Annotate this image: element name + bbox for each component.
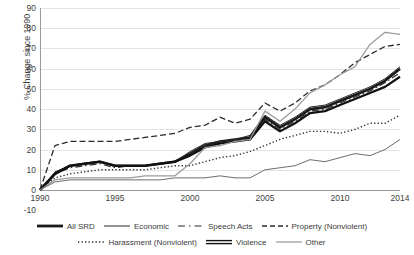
series-line xyxy=(40,69,400,190)
legend-item-label: Other xyxy=(306,238,326,247)
legend-swatch-dotted xyxy=(78,238,104,246)
legend-item[interactable]: Other xyxy=(276,238,326,247)
legend-item-label: Economic xyxy=(134,222,169,231)
legend-swatch-dashdot xyxy=(178,222,204,230)
legend-item-label: Violence xyxy=(236,238,267,247)
legend-swatch-dashed xyxy=(262,222,288,230)
legend-item[interactable]: Violence xyxy=(206,238,267,247)
legend-item-label: Speech Acts xyxy=(208,222,252,231)
legend-item[interactable]: Economic xyxy=(104,222,169,231)
series-line xyxy=(40,44,400,190)
legend-swatch-solid-double xyxy=(206,238,232,246)
legend-item-label: Harassment (Nonviolent) xyxy=(108,238,196,247)
legend-item-label: Property (Nonviolent) xyxy=(292,222,368,231)
legend-swatch-solid-thin xyxy=(104,222,130,230)
series-line xyxy=(40,67,400,190)
legend-item[interactable]: Harassment (Nonviolent) xyxy=(78,238,196,247)
series-line xyxy=(40,73,400,190)
series-line xyxy=(40,115,400,190)
chart-legend: All SRDEconomicSpeech ActsProperty (Nonv… xyxy=(0,218,404,255)
legend-item-label: All SRD xyxy=(67,222,95,231)
legend-row: All SRDEconomicSpeech ActsProperty (Nonv… xyxy=(0,218,404,234)
series-line xyxy=(40,77,400,190)
legend-swatch-solid-gray xyxy=(276,238,302,246)
series-line xyxy=(40,32,400,190)
legend-swatch-solid-thick xyxy=(37,222,63,230)
legend-item[interactable]: Property (Nonviolent) xyxy=(262,222,368,231)
legend-item[interactable]: All SRD xyxy=(37,222,95,231)
legend-row: Harassment (Nonviolent)ViolenceOther xyxy=(0,234,404,250)
legend-item[interactable]: Speech Acts xyxy=(178,222,252,231)
